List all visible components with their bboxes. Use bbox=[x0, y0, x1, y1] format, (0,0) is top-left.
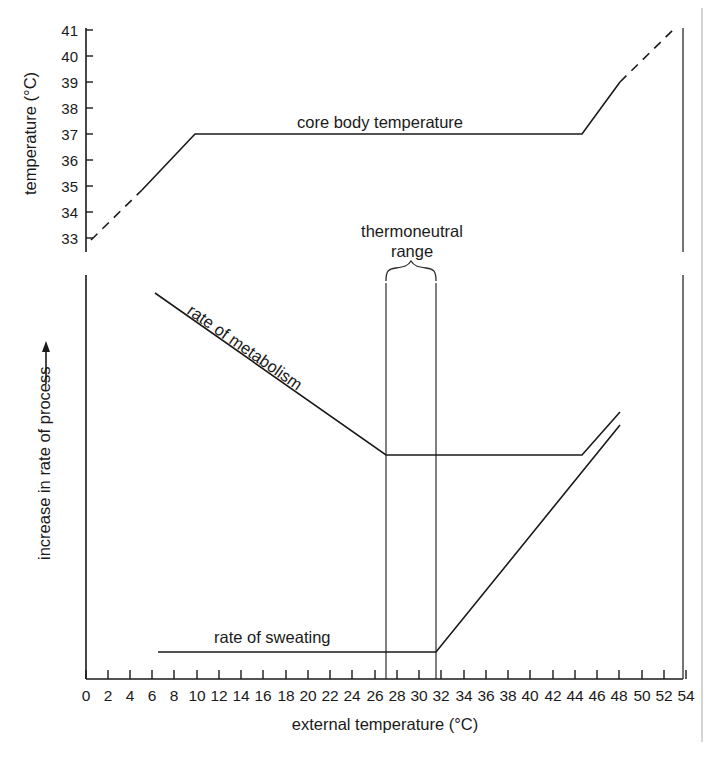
upper-y-tick-38: 38 bbox=[61, 100, 78, 117]
upper-y-tick-41: 41 bbox=[61, 22, 78, 39]
xtick-54: 54 bbox=[677, 687, 695, 704]
upper-y-tick-40: 40 bbox=[61, 48, 78, 65]
xtick-38: 38 bbox=[499, 687, 516, 704]
xtick-36: 36 bbox=[477, 687, 494, 704]
core-body-temperature-dashed-high bbox=[620, 27, 676, 82]
xtick-40: 40 bbox=[521, 687, 539, 704]
xtick-50: 50 bbox=[633, 687, 651, 704]
xtick-20: 20 bbox=[299, 687, 317, 704]
upper-y-tick-39: 39 bbox=[61, 74, 78, 91]
xtick-32: 32 bbox=[432, 687, 449, 704]
core-body-temperature-label: core body temperature bbox=[297, 113, 463, 131]
upper-chart-y-axis-title: temperature (°C) bbox=[21, 72, 39, 195]
upper-y-tick-33: 33 bbox=[61, 230, 78, 247]
upper-chart-y-ticks bbox=[86, 30, 93, 238]
upper-y-tick-36: 36 bbox=[61, 152, 78, 169]
xtick-6: 6 bbox=[148, 687, 157, 704]
xtick-12: 12 bbox=[210, 687, 227, 704]
upper-y-tick-37: 37 bbox=[61, 126, 78, 143]
upper-y-tick-34: 34 bbox=[61, 204, 78, 221]
rate-of-metabolism-curve bbox=[155, 293, 620, 455]
xtick-34: 34 bbox=[455, 687, 473, 704]
figure-canvas: 41 40 39 38 37 36 35 34 33 temperature (… bbox=[0, 0, 715, 757]
rate-of-sweating-curve bbox=[158, 425, 620, 652]
xtick-16: 16 bbox=[254, 687, 271, 704]
xtick-44: 44 bbox=[566, 687, 584, 704]
xtick-24: 24 bbox=[343, 687, 361, 704]
xtick-30: 30 bbox=[410, 687, 428, 704]
xtick-26: 26 bbox=[366, 687, 383, 704]
thermoneutral-label-line1: thermoneutral bbox=[361, 222, 463, 240]
xtick-52: 52 bbox=[655, 687, 672, 704]
lower-chart-y-axis-title: increase in rate of process bbox=[35, 366, 53, 560]
xtick-2: 2 bbox=[104, 687, 113, 704]
xtick-42: 42 bbox=[544, 687, 561, 704]
xtick-18: 18 bbox=[277, 687, 294, 704]
xtick-48: 48 bbox=[610, 687, 627, 704]
xtick-4: 4 bbox=[126, 687, 135, 704]
upper-chart: 41 40 39 38 37 36 35 34 33 temperature (… bbox=[21, 22, 683, 252]
thermoregulation-figure: 41 40 39 38 37 36 35 34 33 temperature (… bbox=[0, 0, 715, 757]
xtick-0: 0 bbox=[82, 687, 91, 704]
thermoneutral-label-line2: range bbox=[391, 242, 433, 260]
rate-of-sweating-label: rate of sweating bbox=[214, 628, 330, 646]
core-body-temperature-dashed-low bbox=[91, 190, 142, 240]
thermoneutral-brace bbox=[386, 261, 436, 281]
lower-chart-x-axis-title: external temperature (°C) bbox=[292, 715, 478, 733]
rate-of-metabolism-label: rate of metabolism bbox=[184, 301, 306, 394]
upper-y-tick-35: 35 bbox=[61, 178, 78, 195]
xtick-10: 10 bbox=[188, 687, 206, 704]
thermoneutral-range-annotation: thermoneutral range bbox=[361, 222, 463, 679]
lower-chart: 0 2 4 6 8 10 12 14 16 18 20 22 24 26 28 … bbox=[35, 275, 695, 733]
core-body-temperature-solid bbox=[142, 82, 620, 190]
xtick-46: 46 bbox=[588, 687, 605, 704]
xtick-8: 8 bbox=[170, 687, 179, 704]
xtick-22: 22 bbox=[321, 687, 338, 704]
xtick-28: 28 bbox=[388, 687, 405, 704]
lower-chart-x-tick-labels: 0 2 4 6 8 10 12 14 16 18 20 22 24 26 28 … bbox=[82, 687, 695, 704]
xtick-14: 14 bbox=[232, 687, 250, 704]
